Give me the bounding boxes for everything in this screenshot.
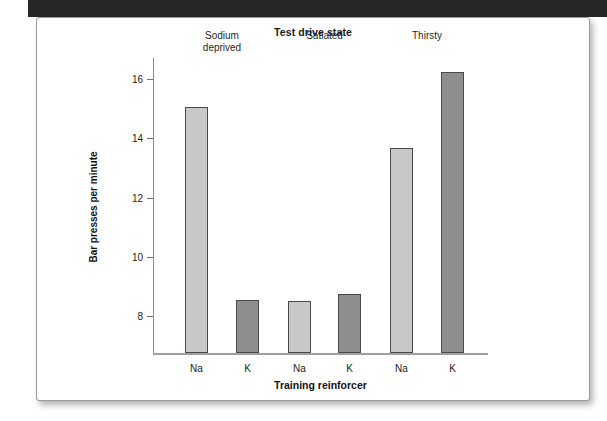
y-axis-title: Bar presses per minute: [88, 151, 99, 262]
x-axis-tick-label: K: [449, 363, 456, 374]
bar: [185, 107, 208, 354]
bar: [338, 294, 361, 353]
bar: [441, 72, 464, 353]
y-axis-tick: 10: [147, 257, 153, 258]
scan-top-band: [28, 0, 607, 17]
bar: [288, 301, 311, 353]
y-axis-line: [153, 58, 154, 355]
y-axis-tick-label: 10: [132, 251, 143, 262]
y-axis-tick-label: 14: [132, 133, 143, 144]
bar: [390, 148, 413, 353]
group-label: Sodium deprived: [203, 30, 241, 54]
bar: [236, 300, 259, 353]
y-axis-tick: 12: [147, 198, 153, 199]
x-axis-tick-label: Na: [395, 363, 408, 374]
page-canvas: Test drive state 810121416 Bar presses p…: [0, 0, 607, 421]
y-axis-tick-label: 12: [132, 192, 143, 203]
x-axis-line: [153, 353, 488, 355]
x-axis-tick-label: K: [346, 363, 353, 374]
plot-area: 810121416 Bar presses per minute NaKNaKN…: [153, 58, 488, 355]
x-axis-tick-label: Na: [190, 363, 203, 374]
bar-chart: Test drive state 810121416 Bar presses p…: [37, 18, 589, 400]
x-axis-title: Training reinforcer: [153, 379, 488, 391]
x-axis-tick-label: Na: [293, 363, 306, 374]
y-axis-tick-label: 8: [137, 311, 143, 322]
figure-card: Test drive state 810121416 Bar presses p…: [36, 17, 590, 401]
group-label: Thirsty: [412, 30, 442, 42]
y-axis-tick-label: 16: [132, 73, 143, 84]
x-axis-tick-label: K: [244, 363, 251, 374]
y-axis-tick: 8: [147, 316, 153, 317]
y-axis-tick: 14: [147, 138, 153, 139]
y-axis-tick: 16: [147, 79, 153, 80]
group-label: Satiated: [306, 30, 343, 42]
